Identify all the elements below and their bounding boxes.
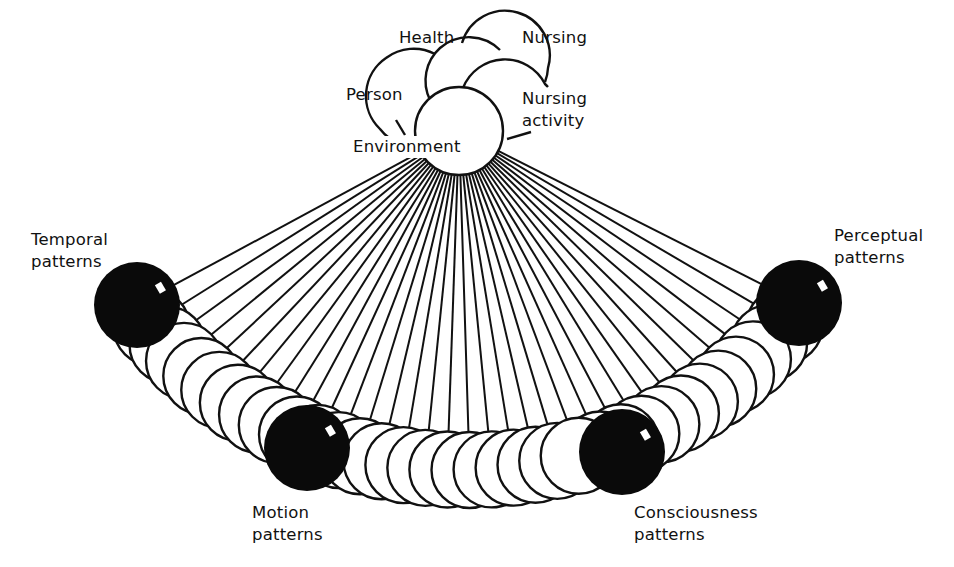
label-perceptual-patterns: Perceptual patterns: [834, 225, 923, 269]
label-health: Health: [399, 27, 454, 49]
environment-circle: [415, 87, 503, 175]
ray-line: [195, 157, 423, 321]
label-motion-patterns: Motion patterns: [252, 502, 323, 546]
ray-line: [332, 171, 441, 408]
nursing-activity-arc: [463, 59, 548, 88]
ray-line: [370, 173, 446, 419]
label-nursing: Nursing: [522, 27, 587, 49]
ray-line: [469, 174, 528, 428]
pendulum-diagram: [0, 0, 954, 567]
diagram-canvas: Health Nursing Person Nursing activity E…: [0, 0, 954, 567]
label-person: Person: [346, 84, 403, 106]
label-environment: Environment: [352, 136, 462, 158]
ray-line: [488, 164, 676, 373]
ray-line: [243, 163, 429, 361]
ball-perceptual-patterns: [756, 260, 842, 346]
ray-line: [181, 154, 422, 305]
person-pointer: [396, 120, 405, 135]
ray-line: [492, 160, 710, 348]
ball-motion-patterns: [264, 405, 350, 491]
label-temporal-patterns: Temporal patterns: [31, 229, 108, 273]
ball-temporal-patterns: [94, 262, 180, 348]
label-nursing-activity: Nursing activity: [522, 88, 587, 132]
ray-line: [477, 171, 586, 414]
ray-line: [490, 162, 693, 361]
ray-line: [226, 161, 427, 349]
ball-consciousness-patterns: [579, 409, 665, 495]
ray-line: [389, 174, 448, 424]
ray-line: [295, 168, 436, 392]
nursing-activity-pointer: [507, 132, 531, 139]
ray-line: [167, 152, 420, 289]
label-consciousness-patterns: Consciousness patterns: [634, 502, 758, 546]
ray-line: [277, 167, 433, 383]
